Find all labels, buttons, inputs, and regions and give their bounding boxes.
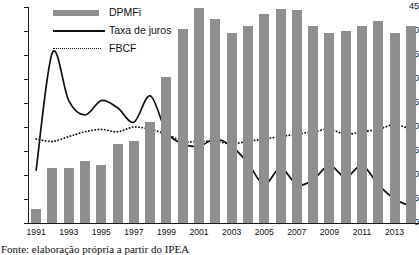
bar: [390, 33, 400, 223]
legend-label: Taxa de juros: [109, 24, 171, 36]
bar: [373, 21, 383, 223]
legend-label: DPMFi: [109, 6, 141, 18]
legend-item-fbcf: FBCF: [47, 40, 182, 58]
x-tick-label: 2013: [378, 228, 412, 237]
x-tick-label: 2005: [247, 228, 281, 237]
legend-item-dpmfi: DPMFi: [47, 4, 182, 22]
bar: [47, 168, 57, 223]
bar: [357, 26, 367, 223]
bar: [308, 26, 318, 223]
bar: [161, 77, 171, 223]
bar: [243, 26, 253, 223]
bar: [96, 165, 106, 223]
x-tick-label: 1993: [52, 228, 86, 237]
line-taxa-de-juros: [36, 51, 411, 206]
legend-label: FBCF: [109, 42, 136, 54]
solid-line-icon: [53, 30, 105, 32]
bar: [227, 33, 237, 223]
chart-figure: 051015202530354045 199119931995199719992…: [0, 0, 419, 255]
bar: [292, 10, 302, 223]
bar: [64, 168, 74, 223]
bar: [276, 9, 286, 223]
chart-legend: DPMFi Taxa de juros FBCF: [47, 4, 182, 58]
x-axis-line: [28, 223, 419, 224]
x-tick-label: 2011: [345, 228, 379, 237]
figure-caption: Fonte: elaboração própria a partir do IP…: [1, 243, 189, 255]
x-tick-label: 2009: [312, 228, 346, 237]
bar: [80, 161, 90, 223]
dotted-line-icon: [53, 48, 101, 49]
bar: [194, 8, 204, 223]
x-tick-label: 2007: [280, 228, 314, 237]
bar: [129, 141, 139, 223]
bar: [145, 122, 155, 223]
bar-swatch-icon: [53, 10, 99, 16]
x-tick-label: 1999: [149, 228, 183, 237]
bar: [31, 209, 41, 223]
x-tick-label: 1991: [19, 228, 53, 237]
bar: [324, 33, 334, 223]
x-tick-label: 2001: [182, 228, 216, 237]
bar: [210, 19, 220, 223]
x-tick-label: 1995: [84, 228, 118, 237]
bar: [113, 144, 123, 223]
legend-item-taxa-de-juros: Taxa de juros: [47, 22, 182, 40]
bar: [259, 14, 269, 223]
bar: [341, 31, 351, 223]
bar: [406, 26, 416, 223]
x-tick-label: 1997: [117, 228, 151, 237]
x-tick-label: 2003: [215, 228, 249, 237]
